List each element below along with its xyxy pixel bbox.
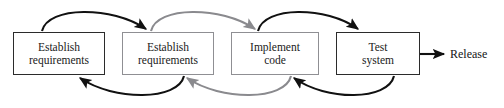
node-label: Testsystem [360,41,396,67]
arc-back-1 [80,76,184,95]
process-flow-diagram: Establishrequirements Establishrequireme… [0,0,504,108]
arc-forward-2 [151,12,255,31]
arc-back-2 [187,76,291,95]
node-label: Establishrequirements [27,41,91,67]
arc-back-3 [294,76,394,95]
arc-forward-1 [42,12,146,31]
node-establish-requirements-1[interactable]: Establishrequirements [13,32,105,75]
release-label: Release [450,47,487,62]
node-label: Implementcode [248,41,302,67]
node-establish-requirements-2[interactable]: Establishrequirements [122,32,214,75]
arc-forward-3 [258,12,358,31]
node-label: Establishrequirements [136,41,200,67]
node-implement-code[interactable]: Implementcode [231,32,319,75]
node-test-system[interactable]: Testsystem [336,32,420,75]
